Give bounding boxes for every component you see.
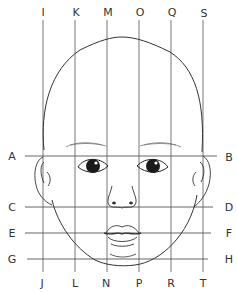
label-o: O [136, 6, 145, 19]
label-n: N [102, 277, 110, 290]
lower-lip-shadow [111, 244, 134, 246]
right-eye-highlight [154, 161, 157, 164]
head-outline [43, 37, 202, 266]
nose [108, 186, 136, 208]
right-iris [146, 159, 160, 173]
upper-lip [106, 226, 139, 233]
left-labels: A C E G [8, 150, 17, 266]
label-j: J [39, 277, 43, 290]
label-d: D [225, 201, 233, 214]
label-b: B [225, 151, 233, 164]
label-q: Q [168, 6, 177, 19]
label-f: F [226, 227, 232, 240]
left-eye [78, 159, 108, 173]
label-e: E [9, 227, 16, 240]
label-m: M [103, 6, 113, 19]
label-h: H [225, 253, 233, 266]
bottom-labels: J L N P R T [39, 277, 206, 290]
right-labels: B D F H [225, 151, 233, 266]
label-i: I [41, 6, 44, 19]
label-s: S [201, 7, 208, 20]
label-g: G [8, 253, 17, 266]
face-proportion-diagram: I K M O Q S J L N P R T A C E G B D F H [0, 0, 237, 292]
left-nostril [112, 202, 115, 204]
chin-mark [110, 254, 136, 257]
label-l: L [72, 277, 79, 290]
label-c: C [8, 201, 16, 214]
label-a: A [8, 150, 16, 163]
left-eye-highlight [94, 161, 97, 164]
right-ear-icon [193, 156, 210, 207]
eyebrows [66, 143, 181, 147]
label-t: T [199, 277, 207, 290]
label-k: K [72, 6, 80, 19]
right-eye [137, 159, 168, 173]
label-r: R [167, 277, 175, 290]
label-p: P [136, 277, 143, 290]
right-nostril [129, 202, 132, 204]
lower-lip [108, 237, 137, 242]
mouth [104, 226, 141, 247]
top-labels: I K M O Q S [41, 6, 207, 20]
left-iris [86, 159, 100, 173]
